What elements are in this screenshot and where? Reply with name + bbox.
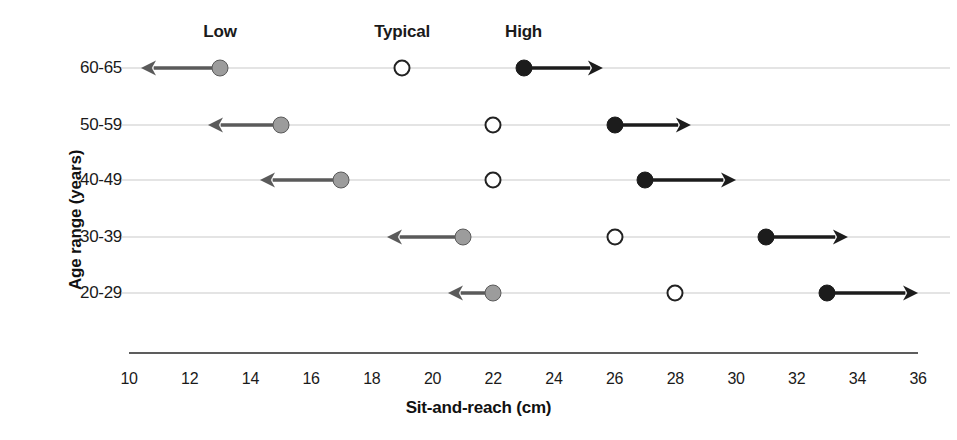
x-tick-label-30: 30 xyxy=(727,370,744,388)
marker-typical-60-65 xyxy=(394,60,411,77)
x-tick-label-20: 20 xyxy=(424,370,441,388)
marker-low-50-59 xyxy=(272,117,289,134)
plot-area xyxy=(0,0,957,440)
x-tick-label-26: 26 xyxy=(606,370,623,388)
marker-high-50-59 xyxy=(606,117,623,134)
marker-low-60-65 xyxy=(212,60,229,77)
marker-typical-30-39 xyxy=(606,229,623,246)
x-axis-title: Sit-and-reach (cm) xyxy=(0,398,957,418)
marker-typical-40-49 xyxy=(485,172,502,189)
marker-low-20-29 xyxy=(485,285,502,302)
marker-high-30-39 xyxy=(758,229,775,246)
x-tick-label-18: 18 xyxy=(363,370,380,388)
x-tick-label-10: 10 xyxy=(120,370,137,388)
chart-figure: LowTypicalHigh Age range (years) 60-6550… xyxy=(0,0,957,440)
x-tick-label-16: 16 xyxy=(302,370,319,388)
marker-typical-50-59 xyxy=(485,117,502,134)
x-tick-label-14: 14 xyxy=(242,370,259,388)
x-tick-label-34: 34 xyxy=(849,370,866,388)
marker-high-40-49 xyxy=(636,172,653,189)
x-tick-label-22: 22 xyxy=(485,370,502,388)
marker-high-20-29 xyxy=(819,285,836,302)
marker-low-30-39 xyxy=(454,229,471,246)
marker-typical-20-29 xyxy=(667,285,684,302)
x-tick-label-36: 36 xyxy=(909,370,926,388)
marker-low-40-49 xyxy=(333,172,350,189)
x-tick-label-12: 12 xyxy=(181,370,198,388)
x-tick-label-32: 32 xyxy=(788,370,805,388)
x-tick-label-28: 28 xyxy=(667,370,684,388)
x-tick-label-24: 24 xyxy=(545,370,562,388)
x-axis-line xyxy=(129,352,918,354)
marker-high-60-65 xyxy=(515,60,532,77)
